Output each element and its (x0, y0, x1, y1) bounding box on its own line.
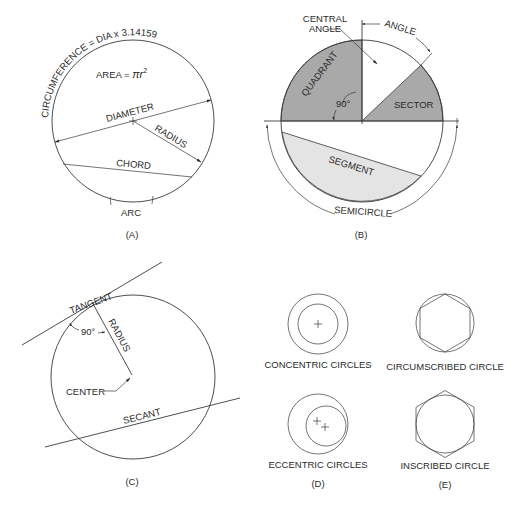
circle-c (51, 295, 215, 459)
sector-label: SECTOR (394, 99, 434, 110)
angle-label: ANGLE (383, 17, 417, 37)
caption-e: (E) (439, 479, 452, 490)
panel-c: TANGENT RADIUS 90° CENTER SECANT (C) (22, 262, 240, 487)
panel-b: QUADRANT 90° SECTOR SEGMENT CENTRAL ANGL… (264, 13, 459, 240)
ninety-leader-c-left (70, 323, 79, 330)
central-angle-label-line2: ANGLE (309, 23, 341, 34)
area-label: AREA = πr2 (96, 67, 147, 80)
tangent-label: TANGENT (68, 290, 114, 316)
panel-e: CIRCUMSCRIBED CIRCLE INSCRIBED CIRCLE (E… (386, 294, 504, 490)
caption-d: (D) (311, 478, 324, 489)
angle-dim-right (416, 38, 430, 52)
diameter-label: DIAMETER (105, 101, 155, 124)
inscribed-label: INSCRIBED CIRCLE (400, 460, 489, 471)
caption-c: (C) (125, 476, 138, 487)
concentric-label: CONCENTRIC CIRCLES (264, 359, 371, 370)
inscribed-circle (416, 395, 474, 453)
arc-label: ARC (121, 207, 141, 218)
circumscribed-hexagon (420, 294, 470, 352)
eccentric-inner-circle (306, 406, 346, 446)
arc-tick-right (152, 196, 153, 204)
caption-b: (B) (355, 229, 368, 240)
circle-terminology-figure: CIRCUMFERENCE = DIA x 3.14159 AREA = πr2… (0, 0, 528, 508)
eccentric-label: ECCENTRIC CIRCLES (268, 459, 367, 470)
chord-label: CHORD (116, 157, 152, 171)
circumscribed-label: CIRCUMSCRIBED CIRCLE (386, 361, 504, 372)
panel-a: CIRCUMFERENCE = DIA x 3.14159 AREA = πr2… (39, 26, 214, 240)
panel-d: CONCENTRIC CIRCLES ECCENTRIC CIRCLES (D) (264, 294, 371, 489)
angle-extension-line (421, 53, 432, 65)
semicircle-label: SEMICIRCLE (334, 204, 393, 219)
center-label: CENTER (66, 386, 105, 397)
inscribed-hexagon (416, 391, 474, 458)
ninety-leader-c-right (98, 332, 105, 333)
ninety-label-c: 90° (81, 326, 96, 337)
center-leader (104, 378, 130, 391)
caption-a: (A) (126, 229, 139, 240)
arc-tick-left (110, 197, 111, 205)
circumscribed-circle (416, 294, 474, 352)
ninety-label-b: 90° (336, 98, 351, 109)
sector-region (362, 65, 443, 121)
secant-line (45, 398, 240, 447)
eccentric-outer-circle (288, 394, 348, 454)
